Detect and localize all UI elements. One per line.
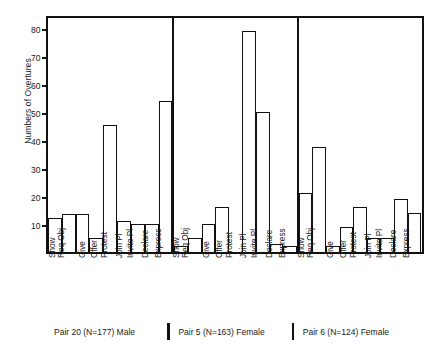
x-axis-tick-label: Offer [216,240,224,258]
x-axis-tick-label: Declare [390,230,398,258]
bar-slot [408,18,422,252]
bar-slot [174,18,188,252]
x-label-slot: Invite Pl [380,256,394,316]
panel-caption: Pair 20 (N=177) Male [54,325,135,339]
chart-panel [297,18,421,252]
x-label-slot: Show [48,256,62,316]
x-axis-tick-label: Declare [266,230,274,258]
x-axis-tick-label: Join Pl [365,233,373,258]
bar-slot [188,18,202,252]
x-axis-tick-label: Express [279,228,287,258]
x-axis-tick-label: Invite Pl [376,229,384,258]
y-axis-tick-label: 60 [31,82,42,91]
x-label-slot: Req Obj [311,256,325,316]
x-label-slot: Offer [339,256,353,316]
x-axis-tick-label: Offer [91,240,99,258]
x-label-slot: Invite Pl [131,256,145,316]
x-axis-tick-label: Req Obj [182,228,190,258]
bar-slot [159,18,173,252]
x-label-slot: Declare [145,256,159,316]
x-label-slot: Join Pl [366,256,380,316]
bar-slot [380,18,394,252]
x-axis-tick-label: Declare [142,230,150,258]
caption-divider [167,323,170,340]
x-label-group: ShowReq ObjGiveOfferProtestJoin PlInvite… [48,256,172,316]
bar-slot [103,18,117,252]
x-label-slot: Join Pl [242,256,256,316]
bar-slot [256,18,270,252]
x-axis-tick-label: Invite Pl [127,229,135,258]
x-label-slot: Express [408,256,422,316]
x-axis-tick-label: Offer [340,240,348,258]
x-axis-tick-label: Invite Pl [252,229,260,258]
panel-captions: Pair 20 (N=177) MalePair 5 (N=163) Femal… [46,325,424,345]
bar-slot [340,18,354,252]
x-label-slot: Show [297,256,311,316]
x-axis-tick-label: Give [203,241,211,258]
x-label-slot: Invite Pl [256,256,270,316]
x-label-slot: Give [200,256,214,316]
x-label-slot: Express [283,256,297,316]
y-axis-tick-label: 70 [31,54,42,63]
x-label-slot: Join Pl [118,256,132,316]
chart-figure: Numbers of Overtures 1020304050607080 Sh… [0,0,437,348]
x-label-slot: Declare [394,256,408,316]
x-label-slot: Show [173,256,187,316]
bar-slot [312,18,326,252]
x-label-slot: Req Obj [62,256,76,316]
x-label-slot: Protest [228,256,242,316]
x-axis-tick-label: Express [155,228,163,258]
bar-slot [394,18,408,252]
x-axis-tick-labels: ShowReq ObjGiveOfferProtestJoin PlInvite… [46,256,424,316]
x-axis-tick-label: Protest [350,232,358,258]
caption-divider [292,323,295,340]
x-axis-tick-label: Protest [101,232,109,258]
bar-slot [367,18,381,252]
bar-slot [299,18,313,252]
x-label-slot: Protest [104,256,118,316]
bar-slot [270,18,284,252]
x-axis-tick-label: Give [78,241,86,258]
x-label-slot: Give [325,256,339,316]
bar-slot [242,18,256,252]
bar-slot [229,18,243,252]
bar-slot [76,18,90,252]
bar-slot [48,18,62,252]
bar-slot [89,18,103,252]
y-axis: 1020304050607080 [22,14,46,260]
x-axis-tick-label: Req Obj [306,228,314,258]
bar-slot [131,18,145,252]
x-axis-tick-label: Join Pl [240,233,248,258]
x-label-slot: Req Obj [187,256,201,316]
x-label-slot: Express [159,256,173,316]
x-label-slot: Give [76,256,90,316]
x-label-slot: Declare [270,256,284,316]
bar-slot [117,18,131,252]
y-axis-tick-label: 20 [31,194,42,203]
chart-panel [172,18,296,252]
x-axis-tick-label: Protest [226,232,234,258]
y-axis-tick-label: 80 [31,26,42,35]
x-label-slot: Offer [90,256,104,316]
y-axis-tick-label: 10 [31,222,42,231]
x-axis-tick-label: Give [327,241,335,258]
y-axis-tick-label: 30 [31,166,42,175]
panel-caption: Pair 6 (N=124) Female [303,325,389,339]
x-axis-tick-label: Express [404,228,412,258]
bar-slot [145,18,159,252]
y-axis-tick-label: 40 [31,138,42,147]
chart-panel [48,18,172,252]
x-label-slot: Protest [353,256,367,316]
x-label-group: ShowReq ObjGiveOfferProtestJoin PlInvite… [173,256,297,316]
bar-slot [215,18,229,252]
x-axis-tick-label: Show [49,238,57,258]
bar-slot [62,18,76,252]
bar-slot [353,18,367,252]
panel-caption: Pair 5 (N=163) Female [178,325,264,339]
x-axis-tick-label: Show [297,238,305,258]
bar [242,31,256,252]
plot-frame [46,16,424,254]
bar-slot [326,18,340,252]
bar-slot [202,18,216,252]
bar-slot [283,18,297,252]
